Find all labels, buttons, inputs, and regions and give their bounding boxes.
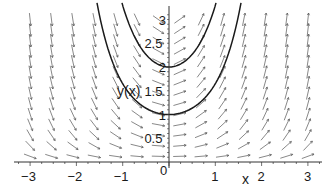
slope-arrow-icon <box>173 123 186 126</box>
slope-arrow-icon <box>218 120 228 129</box>
slope-arrow-icon <box>284 119 290 131</box>
slope-arrow-icon <box>70 108 76 120</box>
slope-arrow-icon <box>67 155 80 159</box>
slope-arrow-icon <box>217 132 228 139</box>
slope-arrow-icon <box>131 144 144 148</box>
slope-arrow-icon <box>198 24 204 36</box>
slope-arrow-icon <box>27 130 33 141</box>
slope-arrow-icon <box>261 130 269 140</box>
y-tick-label: 2 <box>159 60 166 75</box>
y-tick-label: 1 <box>159 108 166 123</box>
slope-arrow-icon <box>259 154 272 158</box>
slope-arrow-icon <box>174 91 186 96</box>
slope-arrow-icon <box>51 13 54 26</box>
slope-arrow-icon <box>282 141 292 150</box>
slope-arrow-icon <box>305 119 310 131</box>
slope-arrow-icon <box>219 88 226 99</box>
slope-arrow-icon <box>173 101 185 105</box>
slope-arrow-icon <box>197 88 206 97</box>
slope-arrow-icon <box>112 98 119 109</box>
slope-arrow-icon <box>93 13 96 26</box>
slope-arrow-icon <box>109 155 122 158</box>
x-ticks: −3−2−10123 <box>19 162 320 184</box>
slope-arrow-icon <box>196 110 207 118</box>
slope-arrow-icon <box>195 144 208 148</box>
slope-arrow-icon <box>131 122 142 128</box>
slope-arrow-icon <box>305 130 311 141</box>
slope-arrow-icon <box>174 80 186 85</box>
slope-arrow-icon <box>174 69 186 75</box>
slope-arrow-icon <box>174 26 185 33</box>
slope-arrow-icon <box>134 14 140 26</box>
slope-arrow-icon <box>216 155 229 158</box>
slope-arrow-icon <box>195 133 207 138</box>
slope-arrow-icon <box>198 14 204 26</box>
slope-arrow-icon <box>130 156 143 158</box>
slope-arrow-icon <box>238 143 249 149</box>
slope-arrow-icon <box>263 98 268 110</box>
y-ticks: 0.511.522.53 <box>144 13 169 158</box>
slope-arrow-icon <box>132 110 143 118</box>
slope-arrow-icon <box>220 45 225 57</box>
slope-arrow-icon <box>173 155 186 157</box>
slope-arrow-icon <box>197 56 204 67</box>
slope-arrow-icon <box>174 37 185 44</box>
slope-arrow-icon <box>239 131 249 140</box>
slope-arrow-icon <box>88 155 101 158</box>
slope-arrow-icon <box>26 141 35 150</box>
slope-arrow-icon <box>48 130 55 141</box>
x-tick-label: −2 <box>67 169 82 184</box>
slope-arrow-icon <box>68 142 79 150</box>
slope-arrow-icon <box>134 24 140 36</box>
slope-arrow-icon <box>24 154 36 159</box>
slope-arrow-icon <box>197 67 205 77</box>
slope-arrow-icon <box>114 13 118 26</box>
slope-arrow-icon <box>240 109 247 120</box>
slope-arrow-icon <box>89 143 100 149</box>
y-axis-label: y(x) <box>117 83 140 99</box>
slope-arrow-icon <box>284 108 289 120</box>
y-tick-label: 3 <box>159 13 166 28</box>
slope-arrow-icon <box>91 98 97 110</box>
x-tick-label: 0 <box>160 163 167 178</box>
slope-arrow-icon <box>110 132 121 139</box>
slope-arrow-icon <box>195 122 206 128</box>
slope-arrow-icon <box>152 124 165 127</box>
slope-arrow-icon <box>174 48 185 54</box>
slope-arrow-icon <box>283 130 290 141</box>
slope-arrow-icon <box>219 77 225 89</box>
slope-arrow-icon <box>110 143 122 148</box>
slope-arrow-icon <box>262 108 268 120</box>
slope-arrow-icon <box>216 143 228 148</box>
slope-arrow-icon <box>29 13 31 26</box>
slope-arrow-icon <box>241 98 247 110</box>
slope-arrow-icon <box>174 16 185 24</box>
slope-arrow-icon <box>91 109 98 120</box>
y-tick-label: 0.5 <box>144 131 162 146</box>
slope-arrow-icon <box>280 154 292 158</box>
slope-arrow-icon <box>302 154 314 159</box>
slope-arrow-icon <box>89 131 99 140</box>
slope-arrow-icon <box>173 134 186 137</box>
y-tick-label: 2.5 <box>144 36 162 51</box>
slope-arrow-icon <box>131 133 143 138</box>
x-tick-label: −1 <box>114 169 129 184</box>
slope-arrow-icon <box>69 130 77 140</box>
x-tick-label: 2 <box>258 169 265 184</box>
slope-arrow-icon <box>72 13 75 26</box>
slope-arrow-icon <box>153 26 164 33</box>
slope-arrow-icon <box>198 46 205 57</box>
axes <box>14 6 322 168</box>
direction-field-chart: −3−2−10123 0.511.522.53 x y(x) <box>0 0 332 193</box>
slope-arrow-icon <box>134 46 141 57</box>
slope-arrow-icon <box>241 87 246 99</box>
slope-arrow-icon <box>197 78 205 88</box>
slope-arrow-icon <box>152 102 164 106</box>
slope-arrow-icon <box>133 56 140 67</box>
slope-arrow-icon <box>90 120 98 130</box>
slope-arrow-icon <box>133 67 141 77</box>
x-tick-label: 1 <box>211 169 218 184</box>
slope-arrow-icon <box>240 120 248 130</box>
slope-arrow-icon <box>47 141 57 150</box>
x-tick-label: 3 <box>304 169 311 184</box>
